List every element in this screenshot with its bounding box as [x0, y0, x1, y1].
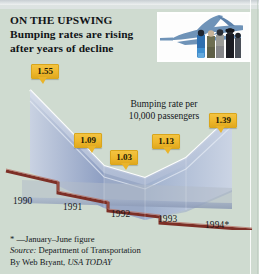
value-callout-1992: 1.03 — [110, 150, 138, 165]
callout-pointer-icon — [38, 77, 47, 84]
callout-pointer-icon — [87, 146, 96, 153]
value-callout-1993: 1.13 — [152, 134, 180, 149]
headline-kicker: ON THE UPSWING — [10, 13, 160, 27]
callout-pointer-icon — [121, 163, 130, 170]
chart-subtitle-line-2: 10,000 passengers — [104, 110, 224, 122]
callout-pointer-icon — [163, 147, 172, 154]
chart-subtitle-line-1: Bumping rate per — [104, 98, 224, 110]
top-strip-secondary — [0, 5, 259, 9]
axis-label-1994: 1994* — [205, 220, 229, 230]
photo-artwork — [157, 12, 251, 62]
headline: ON THE UPSWING Bumping rates are rising … — [10, 13, 160, 56]
byline-publication: USA TODAY — [67, 257, 111, 267]
footer-notes: * —January–June figure Source: Departmen… — [10, 234, 240, 268]
value-callout-label-1993: 1.13 — [158, 136, 174, 146]
source-value: Department of Transportation — [36, 245, 140, 255]
byline: By Web Bryant, USA TODAY — [10, 257, 240, 268]
callout-pointer-icon — [216, 126, 225, 133]
chart-svg — [0, 60, 259, 230]
axis-label-1992: 1992 — [111, 209, 130, 219]
chart-subtitle: Bumping rate per 10,000 passengers — [104, 98, 224, 121]
axis-label-1990: 1990 — [13, 196, 32, 206]
source-line: Source: Department of Transportation — [10, 245, 240, 256]
headline-line-3: after years of decline — [10, 41, 160, 55]
airplane-and-passengers-photo — [157, 12, 251, 62]
footnote-asterisk: * —January–June figure — [10, 234, 240, 245]
axis-label-1993: 1993 — [158, 214, 177, 224]
value-callout-label-1991: 1.09 — [80, 135, 96, 145]
value-callout-label-1992: 1.03 — [116, 152, 132, 162]
value-callout-1994: 1.39 — [209, 113, 237, 128]
value-callout-1991: 1.09 — [74, 133, 102, 148]
infographic-root: ON THE UPSWING Bumping rates are rising … — [0, 0, 259, 274]
source-label: Source: — [10, 245, 36, 255]
headline-line-2: Bumping rates are rising — [10, 27, 160, 41]
byline-author: By Web Bryant, — [10, 257, 67, 267]
chart-plot-area — [0, 60, 259, 230]
value-callout-label-1990: 1.55 — [37, 66, 53, 76]
value-callout-1990: 1.55 — [31, 64, 59, 79]
value-callout-label-1994: 1.39 — [215, 115, 231, 125]
axis-label-1991: 1991 — [63, 202, 82, 212]
